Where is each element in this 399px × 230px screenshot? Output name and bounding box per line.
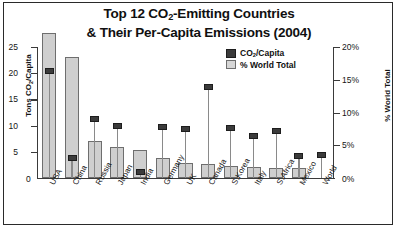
marker-co2-capita xyxy=(68,155,77,161)
bar-group xyxy=(315,47,329,178)
marker-co2-capita xyxy=(90,116,99,122)
chart-legend: CO2/Capita % World Total xyxy=(226,48,296,70)
y-tick-label-left-20: 20 xyxy=(0,69,18,78)
y-axis-label-right: % World Total xyxy=(383,50,392,142)
marker-stem xyxy=(162,127,163,178)
chart-frame: Top 12 CO2-Emitting Countries & Their Pe… xyxy=(3,2,393,225)
marker-stem xyxy=(230,128,231,178)
bar-group xyxy=(133,47,147,178)
y-tick-label-left-10: 10 xyxy=(0,122,18,131)
y-tick-label-left-15: 15 xyxy=(0,95,18,104)
marker-stem xyxy=(49,71,50,178)
y-tick-label-right-5%: 5% xyxy=(342,141,382,150)
marker-co2-capita xyxy=(181,126,190,132)
marker-stem xyxy=(276,131,277,178)
y-tick-right-10% xyxy=(334,113,340,114)
y-tick-label-right-10%: 10% xyxy=(342,109,382,118)
marker-stem xyxy=(298,156,299,178)
marker-stem xyxy=(208,87,209,178)
marker-co2-capita xyxy=(45,68,54,74)
y-tick-label-right-20%: 20% xyxy=(342,43,382,52)
legend-label-co2-capita: CO2/Capita xyxy=(240,48,284,58)
marker-stem xyxy=(117,126,118,178)
y-axis-label-left: Tons CO2/Capita xyxy=(24,40,33,132)
y-tick-right-20% xyxy=(334,47,340,48)
bar-group xyxy=(42,47,56,178)
y-tick-label-left-25: 25 xyxy=(0,43,18,52)
y-tick-left-25 xyxy=(31,47,37,48)
legend-label-world-total: % World Total xyxy=(240,60,296,70)
chart-title-line1: Top 12 CO2-Emitting Countries xyxy=(103,6,294,21)
legend-item-world-total: % World Total xyxy=(226,59,296,70)
marker-stem xyxy=(253,136,254,178)
y-tick-left-15 xyxy=(31,99,37,100)
marker-co2-capita xyxy=(317,152,326,158)
bar-group xyxy=(88,47,102,178)
bar-group xyxy=(65,47,79,178)
marker-stem xyxy=(185,129,186,178)
bar-group xyxy=(201,47,215,178)
bar-group xyxy=(156,47,170,178)
chart-title: Top 12 CO2-Emitting Countries & Their Pe… xyxy=(4,6,394,40)
marker-co2-capita xyxy=(204,84,213,90)
y-tick-right-15% xyxy=(334,80,340,81)
marker-co2-capita xyxy=(113,123,122,129)
y-tick-left-5 xyxy=(31,152,37,153)
marker-co2-capita xyxy=(294,153,303,159)
y-tick-left-20 xyxy=(31,73,37,74)
marker-stem xyxy=(94,119,95,178)
marker-co2-capita xyxy=(158,124,167,130)
y-tick-left-10 xyxy=(31,126,37,127)
bar-group xyxy=(110,47,124,178)
chart-title-line2: & Their Per-Capita Emissions (2004) xyxy=(4,25,394,40)
legend-swatch-world-total xyxy=(226,60,236,69)
marker-co2-capita xyxy=(272,128,281,134)
marker-co2-capita xyxy=(249,133,258,139)
y-tick-label-right-15%: 15% xyxy=(342,76,382,85)
legend-item-co2-capita: CO2/Capita xyxy=(226,48,296,59)
y-tick-right-5% xyxy=(334,145,340,146)
y-tick-label-left-0: 0 xyxy=(26,174,31,184)
y-tick-label-left-5: 5 xyxy=(0,148,18,157)
marker-stem xyxy=(321,155,322,178)
marker-co2-capita xyxy=(226,125,235,131)
legend-swatch-co2-capita xyxy=(226,49,236,58)
y-tick-label-right-0: 0% xyxy=(342,174,354,184)
